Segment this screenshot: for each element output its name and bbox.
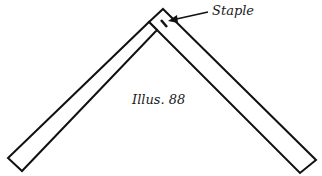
diagram-canvas: [0, 0, 322, 176]
right-strip: [149, 9, 316, 173]
staple-label: Staple: [212, 3, 254, 18]
figure-caption: Illus. 88: [132, 92, 185, 107]
